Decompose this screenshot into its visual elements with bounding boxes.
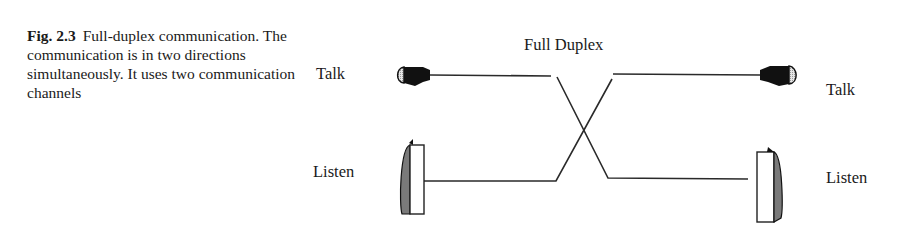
diagram-canvas <box>0 0 904 236</box>
right-speaker-icon <box>757 147 782 222</box>
right-talk-wire <box>613 74 760 75</box>
left-microphone-icon <box>398 67 430 86</box>
left-talk-wire <box>430 75 551 76</box>
left-speaker-icon <box>401 139 424 214</box>
right-microphone-icon <box>760 66 796 86</box>
